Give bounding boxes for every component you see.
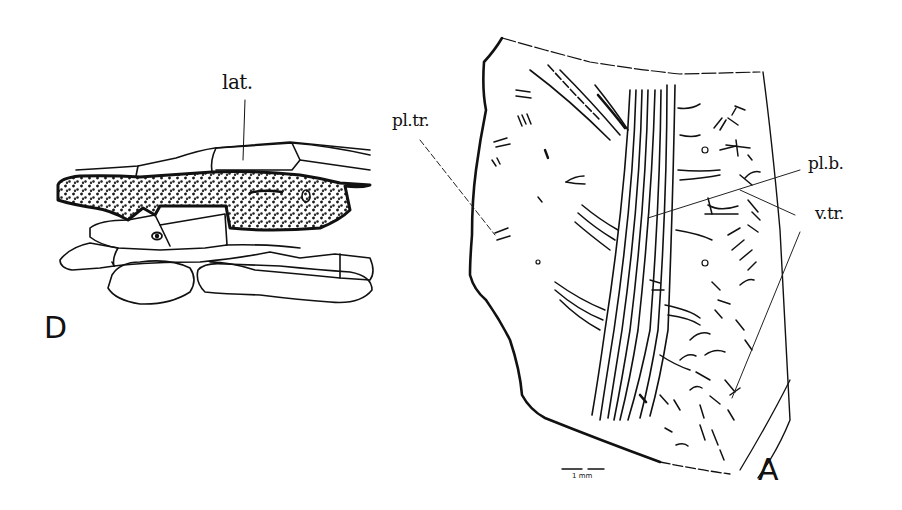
label-pl-tr: pl.tr.	[392, 110, 429, 130]
figure-drawing	[0, 0, 902, 510]
label-pl-b: pl.b.	[808, 153, 844, 173]
label-v-tr: v.tr.	[815, 203, 844, 223]
scale-bar-label: 1 mm	[572, 472, 592, 480]
panel-d-drawing	[58, 100, 373, 304]
panel-a-drawing	[420, 38, 800, 478]
label-lat: lat.	[222, 70, 253, 94]
panel-letter-a: A	[758, 452, 779, 487]
panel-letter-d: D	[44, 310, 67, 345]
